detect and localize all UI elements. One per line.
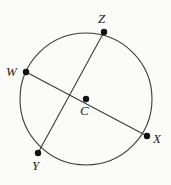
point-label-w: W (6, 65, 17, 78)
point-label-x: X (153, 132, 161, 145)
circle-geometry-figure: Z W C X Y (0, 0, 171, 185)
geometry-canvas (0, 0, 171, 185)
point-label-z: Z (98, 12, 105, 25)
point-marker-y (35, 150, 41, 156)
point-label-c: C (80, 104, 89, 117)
point-marker-z (101, 29, 107, 35)
point-marker-w (23, 69, 29, 75)
point-marker-x (144, 133, 150, 139)
point-label-y: Y (32, 159, 39, 172)
segment-chord-ZY (38, 32, 104, 153)
point-marker-c (83, 96, 89, 102)
